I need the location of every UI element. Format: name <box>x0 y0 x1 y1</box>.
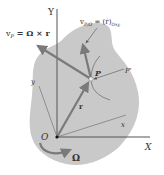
X-axis-label: X <box>144 142 152 152</box>
origin-label: O <box>41 132 49 142</box>
Y-axis-label: Y <box>47 7 55 17</box>
rigid-body-velocity-diagram: Y X y x O P P' r vP = Ω × r vP/Ω = (ṙ)Ox… <box>0 0 164 175</box>
vrel-label: vP/Ω = (ṙ)Oxy <box>79 18 121 27</box>
r-vector-label: r <box>79 102 83 111</box>
vP-label: vP = Ω × r <box>5 28 51 39</box>
origin-point <box>55 135 58 138</box>
P-label: P <box>94 68 102 78</box>
P-prime-label: P' <box>124 67 132 75</box>
x-axis-label: x <box>121 121 125 129</box>
omega-label: Ω <box>72 153 80 163</box>
point-P <box>89 77 93 81</box>
rigid-body-shape <box>30 23 139 165</box>
